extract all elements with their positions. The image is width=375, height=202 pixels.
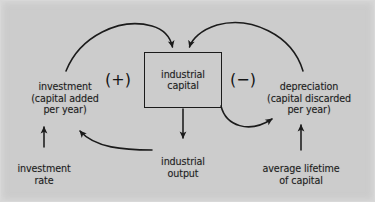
node-average-lifetime-of-capital[interactable]: average lifetime of capital: [245, 152, 357, 186]
link-output-to-investment: [80, 131, 152, 150]
positive-loop-marker: (+): [104, 72, 132, 88]
negative-loop-marker: (−): [229, 72, 257, 88]
positive-loop-marker-label: (+): [105, 70, 131, 89]
node-industrial-capital-label: industrial capital: [161, 69, 205, 92]
node-average-lifetime-of-capital-label: average lifetime of capital: [262, 163, 339, 185]
negative-loop-marker-label: (−): [230, 70, 256, 89]
node-investment-rate-label: investment rate: [17, 163, 70, 185]
diagram-canvas: industrial capital investment (capital a…: [0, 0, 375, 202]
node-industrial-output-label: industrial output: [161, 156, 205, 178]
node-industrial-capital[interactable]: industrial capital: [144, 52, 222, 108]
node-depreciation[interactable]: depreciation (capital discarded per year…: [243, 70, 375, 116]
node-investment-label: investment (capital added per year): [31, 81, 99, 115]
node-depreciation-label: depreciation (capital discarded per year…: [267, 81, 351, 115]
node-investment-rate[interactable]: investment rate: [4, 152, 84, 186]
node-industrial-output[interactable]: industrial output: [143, 145, 223, 179]
